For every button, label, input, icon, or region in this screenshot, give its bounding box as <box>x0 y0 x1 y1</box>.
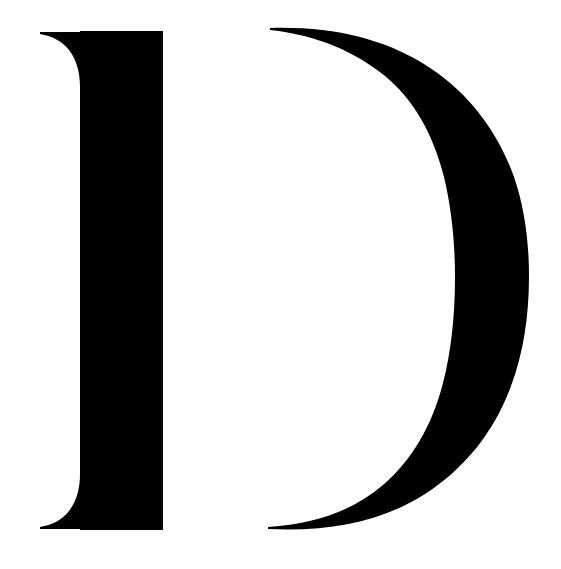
glyph-svg <box>0 0 561 569</box>
glyph-canvas <box>0 0 561 569</box>
